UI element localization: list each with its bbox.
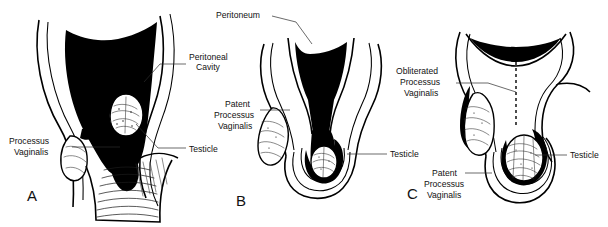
label-obliterated-line1: Obliterated [396,66,438,76]
anatomy-illustration: Peritoneal Cavity Processus Vaginalis Te… [0,0,608,227]
label-testicle-a: Testicle [189,144,218,154]
label-testicle-b: Testicle [390,149,419,159]
label-peritoneal-cavity-line2: Cavity [196,62,221,72]
figure-root: Peritoneal Cavity Processus Vaginalis Te… [0,0,608,227]
label-processus-vaginalis-line2: Vaginalis [14,147,48,157]
label-testicle-c: Testicle [570,150,599,160]
label-patent-b-line3: Vaginalis [218,121,252,131]
label-patent-b-line2: Processus [214,110,254,120]
label-peritoneal-cavity-line1: Peritoneal [189,52,228,62]
label-processus-vaginalis-line1: Processus [9,136,49,146]
panel-letter-a: A [27,187,37,204]
label-patent-c-line1: Patent [432,168,457,178]
label-obliterated-line2: Processus [400,77,440,87]
label-patent-b-line1: Patent [225,99,250,109]
label-obliterated-line3: Vaginalis [404,88,438,98]
panel-letter-b: B [236,192,246,209]
label-patent-c-line3: Vaginalis [427,190,461,200]
label-patent-c-line2: Processus [424,179,464,189]
label-peritoneum: Peritoneum [216,10,260,20]
panel-letter-c: C [407,185,418,202]
